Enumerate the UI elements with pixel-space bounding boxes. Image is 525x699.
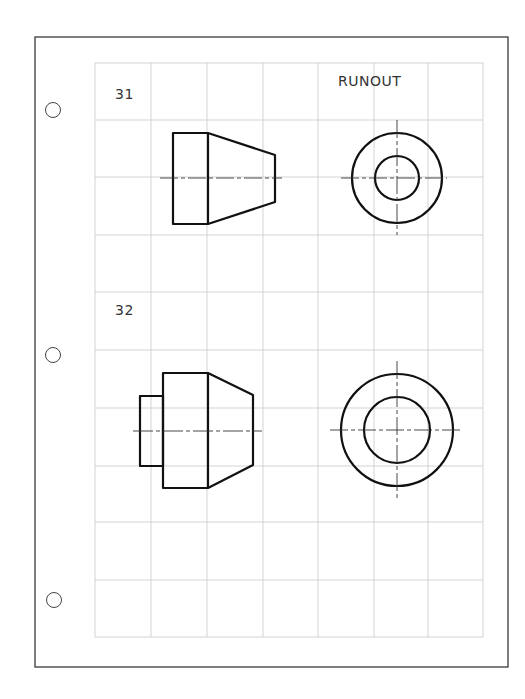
punch-hole-icon: [46, 348, 61, 363]
page-title: RUNOUT: [338, 73, 401, 89]
grid: [95, 63, 483, 637]
problem-32-front-view: [140, 373, 253, 488]
punch-hole-icon: [46, 103, 61, 118]
sheet-border: [35, 37, 508, 667]
problem-31-front-view: [173, 133, 275, 224]
punch-hole-icon: [47, 593, 62, 608]
centerlines: [330, 361, 463, 499]
problem-32-number: 32: [115, 302, 134, 318]
drawing-sheet: [0, 0, 525, 699]
centerlines: [341, 120, 447, 235]
problem-31-number: 31: [115, 86, 134, 102]
punch-holes: [46, 103, 62, 608]
